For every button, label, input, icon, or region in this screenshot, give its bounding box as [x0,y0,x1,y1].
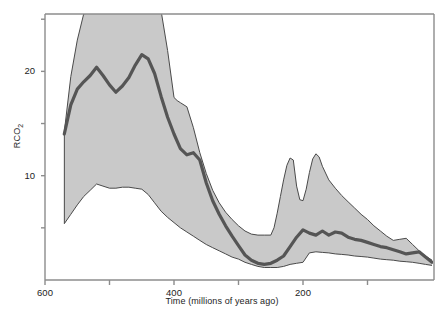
y-tick-label: 20 [11,65,35,76]
y-tick-label: 10 [11,170,35,181]
x-axis-title: Time (millions of years ago) [0,296,444,306]
y-axis-title-subscript: 2 [17,124,24,128]
y-axis-title-text: RCO [12,128,22,149]
rco2-plot-svg [0,0,444,319]
uncertainty-band [64,11,432,268]
y-axis-title: RCO2 [12,106,24,166]
chart-figure: RCO2 2010 600400200 Time (millions of ye… [0,0,444,319]
plot-content [64,11,432,268]
